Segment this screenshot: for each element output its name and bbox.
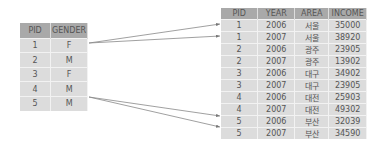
arrow-pid5-to-row10 [89, 97, 220, 127]
arrow-pid5-to-row9 [89, 97, 220, 116]
arrow-pid1-to-row2 [89, 36, 220, 43]
relationship-arrows [0, 0, 383, 142]
arrow-pid1-to-row1 [89, 24, 220, 43]
